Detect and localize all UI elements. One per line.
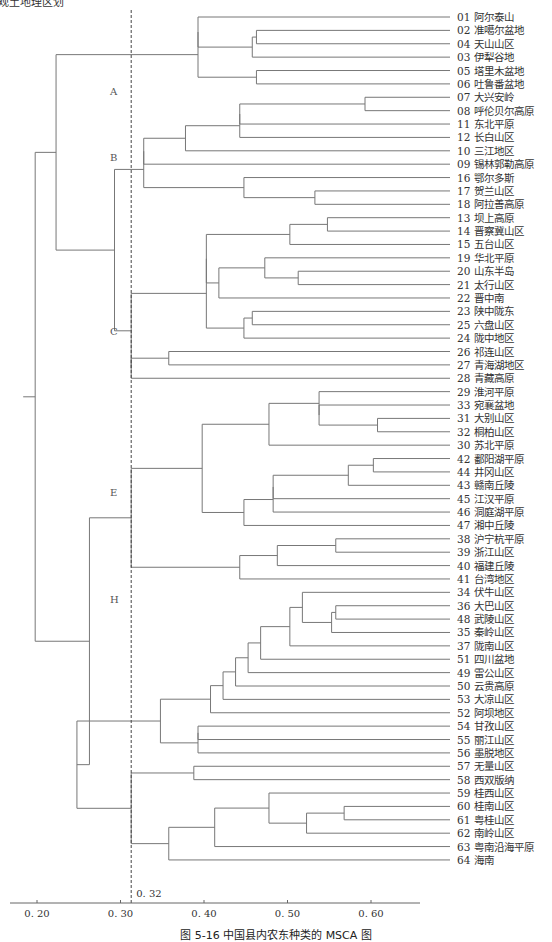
dendrogram-branches	[23, 17, 450, 860]
leaf-label: 20 山东半岛	[457, 265, 514, 277]
leaf-label: 09 锡林郭勒高原	[457, 158, 534, 170]
leaf-label: 54 甘孜山区	[457, 720, 514, 732]
leaf-label: 21 太行山区	[457, 279, 514, 291]
leaf-label: 50 云贵高原	[457, 680, 514, 692]
leaf-label: 34 伏牛山区	[457, 586, 514, 598]
x-tick-label: 0. 20	[24, 908, 49, 919]
x-tick-label: 0. 30	[108, 908, 133, 919]
leaf-label: 55 丽江山区	[457, 734, 514, 746]
leaf-label: 49 雷公山区	[457, 667, 514, 679]
leaf-label: 23 陕中陇东	[457, 305, 514, 317]
leaf-label: 56 墨脱地区	[457, 747, 514, 759]
leaf-label: 35 秦岭山区	[457, 626, 514, 638]
leaf-label: 22 晋中南	[457, 292, 504, 304]
leaf-label: 64 海南	[457, 854, 494, 866]
leaf-label: 15 五台山区	[457, 238, 514, 250]
leaf-label: 40 福建丘陵	[457, 560, 515, 572]
leaf-label: 24 陇中地区	[457, 332, 514, 344]
cut-line-label: 0. 32	[136, 888, 161, 899]
cluster-labels: ABCEH	[109, 86, 119, 605]
leaf-label: 29 淮河平原	[457, 386, 514, 398]
leaf-label: 37 陇南山区	[457, 640, 514, 652]
leaf-label: 19 华北平原	[457, 252, 514, 264]
cluster-label: B	[110, 152, 117, 163]
leaf-label: 60 桂南山区	[457, 800, 514, 812]
leaf-label: 47 湘中丘陵	[457, 519, 515, 531]
leaf-label: 27 青海湖地区	[457, 359, 524, 371]
leaf-label: 58 西双版纳	[457, 774, 514, 786]
leaf-label: 13 坝上高原	[457, 212, 514, 224]
leaf-label: 08 呼伦贝尔高原	[457, 105, 534, 117]
leaf-label: 43 赣南丘陵	[457, 479, 515, 491]
leaf-label: 06 吐鲁番盆地	[457, 78, 525, 90]
leaf-label: 62 南岭山区	[457, 827, 514, 839]
x-tick-label: 0. 50	[275, 908, 300, 919]
leaf-label: 11 东北平原	[457, 118, 514, 130]
leaf-label: 25 六盘山区	[457, 319, 514, 331]
leaf-label: 41 台湾地区	[457, 573, 514, 585]
leaf-label: 42 鄱阳湖平原	[457, 453, 524, 465]
leaf-label: 03 伊犁谷地	[457, 51, 515, 63]
leaf-label: 45 江汉平原	[457, 493, 514, 505]
cluster-label: A	[109, 86, 118, 97]
x-tick-label: 0. 40	[191, 908, 216, 919]
leaf-label: 36 大巴山区	[457, 600, 514, 612]
leaf-label: 32 桐柏山区	[457, 426, 514, 438]
cluster-label: E	[110, 487, 117, 498]
leaf-label: 26 祁连山区	[457, 346, 514, 358]
leaf-label: 16 鄂尔多斯	[457, 172, 515, 184]
x-axis: 0. 200. 300. 400. 500. 60	[10, 900, 420, 919]
leaf-label: 59 桂西山区	[457, 787, 514, 799]
leaf-label: 12 长白山区	[457, 131, 514, 143]
leaf-label: 38 沪宁杭平原	[457, 533, 524, 545]
leaf-label: 53 大凉山区	[457, 693, 514, 705]
leaf-label: 10 三江地区	[457, 145, 514, 157]
leaf-label: 14 晋察冀山区	[457, 225, 524, 237]
leaf-label: 52 阿坝地区	[457, 707, 514, 719]
leaf-label: 31 大别山区	[457, 412, 514, 424]
leaf-label: 28 青藏高原	[457, 372, 514, 384]
leaf-label: 51 四川盆地	[457, 653, 515, 665]
leaf-label: 30 苏北平原	[457, 439, 514, 451]
leaf-label: 63 粤南沿海平原	[457, 841, 534, 853]
leaf-labels: 01 阿尔泰山02 准噶尔盆地04 天山山区03 伊犁谷地05 塔里木盆地06 …	[457, 11, 534, 866]
leaf-label: 46 洞庭湖平原	[457, 506, 524, 518]
x-tick-label: 0. 60	[358, 908, 383, 919]
leaf-label: 48 武陵山区	[457, 613, 514, 625]
figure-caption: 图 5-16 中国县内农东种类的 MSCA 图	[0, 926, 552, 942]
leaf-label: 04 天山山区	[457, 38, 514, 50]
cut-threshold-line: 0. 32	[131, 10, 161, 903]
leaf-label: 33 宛襄盆地	[457, 399, 515, 411]
leaf-label: 57 无量山区	[457, 760, 514, 772]
leaf-label: 01 阿尔泰山	[457, 11, 514, 23]
cluster-label: C	[110, 326, 118, 337]
cluster-label: H	[110, 594, 119, 605]
leaf-label: 44 井冈山区	[457, 466, 514, 478]
leaf-label: 05 塔里木盆地	[457, 65, 525, 77]
leaf-label: 39 浙江山区	[457, 546, 514, 558]
leaf-label: 07 大兴安岭	[457, 91, 515, 103]
leaf-label: 61 粤桂山区	[457, 814, 514, 826]
leaf-label: 02 准噶尔盆地	[457, 24, 525, 36]
leaf-label: 18 阿拉善高原	[457, 198, 524, 210]
leaf-label: 17 贺兰山区	[457, 185, 514, 197]
